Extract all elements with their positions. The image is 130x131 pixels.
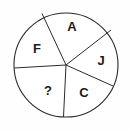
sector-label-question-mark: ? — [44, 84, 52, 97]
sector-label-c: C — [79, 86, 88, 99]
sector-label-j: J — [97, 54, 104, 67]
sector-label-f: F — [33, 42, 41, 55]
segmented-circle-diagram — [0, 0, 130, 131]
sector-label-a: A — [67, 20, 76, 33]
figure-root: A F J ? C — [0, 0, 130, 131]
